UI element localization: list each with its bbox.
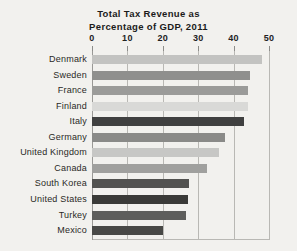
bar-canada: [92, 164, 207, 173]
bar-france: [92, 86, 248, 95]
plot-area: DenmarkSwedenFranceFinlandItalyGermanyUn…: [92, 51, 269, 240]
category-label-mexico: Mexico: [57, 225, 87, 236]
bar-row: Canada: [92, 164, 207, 173]
bar-row: Sweden: [92, 71, 250, 80]
bar-row: Italy: [92, 117, 244, 126]
bar-row: Denmark: [92, 55, 262, 64]
x-tick-label-50: 50: [256, 33, 282, 43]
bar-row: Mexico: [92, 226, 163, 235]
bar-sweden: [92, 71, 250, 80]
gridline-50: [269, 51, 270, 240]
x-tick-label-10: 10: [114, 33, 140, 43]
category-label-italy: Italy: [69, 116, 87, 127]
chart-title: Total Tax Revenue as Percentage of GDP, …: [0, 8, 297, 33]
x-tick-label-20: 20: [150, 33, 176, 43]
category-label-united-states: United States: [30, 194, 87, 205]
bar-row: France: [92, 86, 248, 95]
x-axis-tick-labels: 01020304050: [0, 33, 297, 46]
bar-germany: [92, 133, 225, 142]
x-tick-label-30: 30: [185, 33, 211, 43]
category-label-france: France: [58, 85, 87, 96]
x-tick-0: [92, 46, 93, 51]
category-label-denmark: Denmark: [49, 54, 87, 65]
bar-denmark: [92, 55, 262, 64]
bar-row: United Kingdom: [92, 148, 219, 157]
bar-united-states: [92, 195, 188, 204]
category-label-united-kingdom: United Kingdom: [20, 147, 87, 158]
bar-turkey: [92, 211, 186, 220]
chart-title-line-2: Percentage of GDP, 2011: [0, 21, 297, 34]
bar-south-korea: [92, 179, 189, 188]
bar-italy: [92, 117, 244, 126]
bar-row: Turkey: [92, 211, 186, 220]
bar-row: South Korea: [92, 179, 189, 188]
category-label-sweden: Sweden: [53, 70, 87, 81]
chart-title-line-1: Total Tax Revenue as: [0, 8, 297, 21]
x-tick-label-40: 40: [221, 33, 247, 43]
bar-finland: [92, 102, 248, 111]
bar-row: United States: [92, 195, 188, 204]
bar-row: Finland: [92, 102, 248, 111]
category-label-canada: Canada: [54, 163, 87, 174]
x-tick-20: [163, 46, 164, 51]
x-axis-line: [92, 239, 269, 240]
bar-united-kingdom: [92, 148, 219, 157]
category-label-turkey: Turkey: [59, 210, 87, 221]
category-label-finland: Finland: [56, 101, 87, 112]
bar-mexico: [92, 226, 163, 235]
category-label-south-korea: South Korea: [35, 178, 87, 189]
x-tick-label-0: 0: [79, 33, 105, 43]
x-tick-50: [269, 46, 270, 51]
bar-row: Germany: [92, 133, 225, 142]
category-label-germany: Germany: [49, 132, 87, 143]
x-tick-10: [127, 46, 128, 51]
x-tick-40: [234, 46, 235, 51]
x-tick-30: [198, 46, 199, 51]
chart-container: Total Tax Revenue as Percentage of GDP, …: [0, 0, 297, 251]
